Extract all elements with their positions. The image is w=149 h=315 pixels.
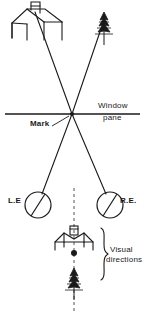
label-right-eye: R.E. xyxy=(120,196,136,206)
fixation-dot xyxy=(71,250,77,256)
mark-leader-line xyxy=(52,116,69,126)
label-visual-line1: Visual xyxy=(110,245,133,254)
label-pane: pane xyxy=(103,113,122,123)
label-mark: Mark xyxy=(30,119,49,129)
visual-directions-diagram: Window pane Mark L.E R.E. Visual directi… xyxy=(0,0,149,315)
label-left-eye: L.E xyxy=(8,196,21,206)
tree-bottom xyxy=(65,268,83,300)
left-eye-symbol xyxy=(25,192,51,218)
diagram-canvas xyxy=(0,0,149,315)
house-top xyxy=(12,2,62,40)
label-visual-directions: Visual directions xyxy=(110,245,142,265)
sight-line-house-to-mark xyxy=(35,12,72,114)
label-visual-line2: directions xyxy=(106,255,142,265)
visual-directions-brace xyxy=(101,228,108,280)
sight-line-tree-to-mark xyxy=(72,20,104,114)
sight-lines-upper xyxy=(35,12,104,114)
sight-line-mark-to-right-eye xyxy=(72,114,106,194)
label-window: Window xyxy=(98,101,128,111)
sight-lines-lower xyxy=(42,114,106,194)
